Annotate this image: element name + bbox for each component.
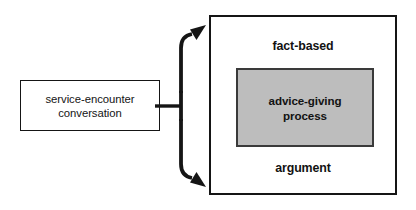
inner-process-box: advice-giving process bbox=[236, 68, 374, 147]
source-node-label: service-encounter conversation bbox=[46, 92, 135, 120]
curved-arrow-up-right-icon bbox=[181, 34, 192, 93]
inner-process-label: advice-giving process bbox=[269, 93, 342, 123]
curved-arrow-down-right-icon bbox=[181, 119, 192, 178]
target-bottom-label: argument bbox=[211, 161, 395, 175]
source-node-box: service-encounter conversation bbox=[20, 80, 160, 131]
diagram-canvas: service-encounter conversation fact-base… bbox=[0, 0, 416, 210]
arrowhead-up-icon bbox=[190, 25, 206, 40]
arrowhead-down-icon bbox=[190, 172, 206, 187]
target-node-box: fact-based advice-giving process argumen… bbox=[209, 15, 397, 195]
target-top-label: fact-based bbox=[211, 39, 395, 53]
